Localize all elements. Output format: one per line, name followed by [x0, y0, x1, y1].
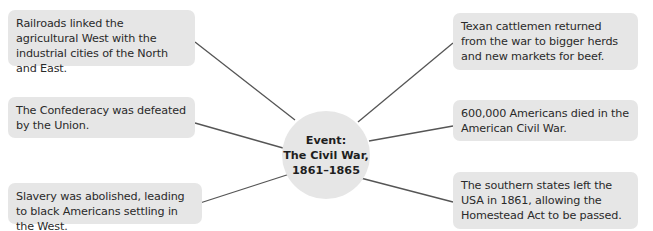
spider-diagram: Railroads linked the agricultural West w… [0, 0, 653, 231]
connector-left-middle [195, 123, 283, 148]
node-left-middle: The Confederacy was defeated by the Unio… [8, 97, 195, 138]
connector-right-middle [369, 126, 453, 141]
hub-line-2: The Civil War, [283, 148, 369, 163]
hub-line-1: Event: [283, 133, 369, 148]
connector-left-bottom [200, 172, 296, 203]
connector-right-bottom [349, 175, 453, 202]
node-right-bottom: The southern states left the USA in 1861… [453, 172, 638, 229]
node-right-middle: 600,000 Americans died in the American C… [453, 100, 638, 141]
connector-left-top [195, 42, 295, 120]
node-left-bottom: Slavery was abolished, leading to black … [8, 183, 202, 224]
connector-right-top [358, 43, 453, 122]
hub-label: Event: The Civil War, 1861–1865 [283, 133, 369, 178]
node-left-top: Railroads linked the agricultural West w… [8, 10, 195, 66]
node-right-top: Texan cattlemen returned from the war to… [453, 13, 638, 70]
hub-line-3: 1861–1865 [283, 163, 369, 178]
central-event-circle: Event: The Civil War, 1861–1865 [282, 111, 370, 199]
